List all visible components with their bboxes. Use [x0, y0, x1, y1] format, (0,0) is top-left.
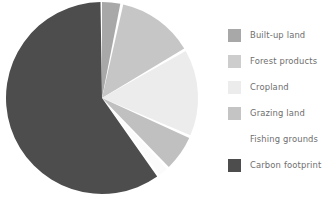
- legend-item-built-up-land[interactable]: Built-up land: [228, 22, 332, 48]
- legend-label-cropland: Cropland: [250, 83, 289, 91]
- legend-label-fishing-grounds: Fishing grounds: [250, 135, 318, 143]
- legend-item-fishing-grounds[interactable]: Fishing grounds: [228, 126, 332, 152]
- legend-swatch-grazing-land: [228, 107, 241, 120]
- legend-item-grazing-land[interactable]: Grazing land: [228, 100, 332, 126]
- legend-swatch-fishing-grounds: [228, 133, 241, 146]
- legend-label-grazing-land: Grazing land: [250, 109, 305, 117]
- pie-chart-plot-area: [0, 0, 210, 197]
- legend-item-cropland[interactable]: Cropland: [228, 74, 332, 100]
- legend-item-carbon-footprint[interactable]: Carbon footprint: [228, 152, 332, 178]
- legend-label-built-up-land: Built-up land: [250, 31, 305, 39]
- legend-swatch-built-up-land: [228, 29, 241, 42]
- legend-swatch-carbon-footprint: [228, 159, 241, 172]
- legend-label-carbon-footprint: Carbon footprint: [250, 161, 321, 169]
- legend-swatch-forest-products: [228, 55, 241, 68]
- legend-swatch-cropland: [228, 81, 241, 94]
- legend-label-forest-products: Forest products: [250, 57, 317, 65]
- legend-item-forest-products[interactable]: Forest products: [228, 48, 332, 74]
- chart-legend: Built-up land Forest products Cropland G…: [228, 22, 332, 178]
- pie-chart-figure: Built-up land Forest products Cropland G…: [0, 0, 332, 197]
- pie-chart-svg: [0, 0, 210, 197]
